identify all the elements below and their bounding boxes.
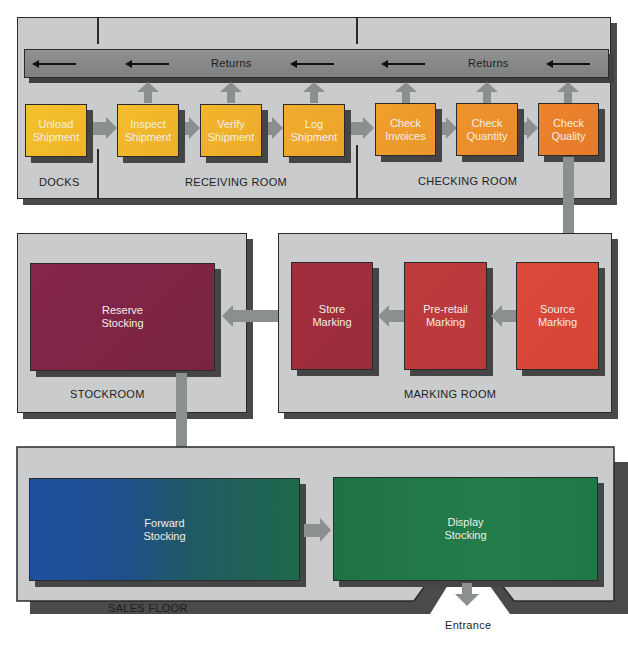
left-arrow-icon (491, 305, 516, 327)
step-label: Unload Shipment (33, 118, 79, 144)
step-label: Inspect Shipment (125, 118, 171, 144)
step-source-marking: Source Marking (516, 262, 599, 370)
step-reserve-stocking: Reserve Stocking (30, 263, 215, 371)
step-check-quantity: Check Quantity (456, 103, 518, 156)
room-label-docks: DOCKS (39, 176, 80, 188)
step-verify-shipment: Verify Shipment (200, 104, 262, 157)
step-display-stocking: Display Stocking (333, 477, 598, 581)
right-arrow-icon (345, 117, 374, 139)
step-label: Reserve Stocking (101, 304, 143, 330)
step-check-invoices: Check Invoices (375, 103, 436, 156)
returns-arrow-icon (34, 63, 76, 65)
room-label-receiving: RECEIVING ROOM (185, 176, 287, 188)
returns-label: Returns (211, 57, 252, 69)
right-arrow-icon (88, 117, 117, 139)
step-pre-retail-marking: Pre-retail Marking (404, 262, 487, 370)
room-label-sales-floor: SALES FLOOR (108, 602, 188, 614)
up-arrow-icon (557, 82, 579, 103)
down-arrow-icon (455, 594, 479, 606)
returns-label: Returns (468, 57, 509, 69)
step-check-quality: Check Quality (538, 103, 599, 156)
up-arrow-icon (476, 82, 498, 103)
step-label: Check Invoices (385, 117, 425, 143)
step-label: Check Quantity (467, 117, 508, 143)
step-store-marking: Store Marking (291, 262, 373, 370)
room-label-marking: MARKING ROOM (404, 388, 496, 400)
room-label-stockroom: STOCKROOM (70, 388, 145, 400)
docks-divider-top (97, 18, 99, 44)
step-log-shipment: Log Shipment (283, 104, 345, 157)
up-arrow-icon (303, 82, 325, 103)
docks-divider-bottom (97, 149, 99, 199)
step-unload-shipment: Unload Shipment (25, 104, 87, 157)
up-arrow-icon (137, 82, 159, 103)
step-label: Verify Shipment (208, 118, 254, 144)
step-label: Check Quality (551, 117, 585, 143)
right-arrow-icon (179, 117, 200, 139)
returns-arrow-icon (548, 63, 590, 65)
step-label: Log Shipment (291, 118, 337, 144)
right-arrow-icon (262, 117, 283, 139)
returns-arrow-icon (292, 63, 334, 65)
step-label: Source Marking (538, 303, 577, 329)
entrance-label: Entrance (445, 619, 491, 631)
step-label: Pre-retail Marking (423, 303, 468, 329)
checking-divider-bottom (356, 145, 358, 199)
step-label: Forward Stocking (143, 517, 185, 543)
step-forward-stocking: Forward Stocking (29, 478, 300, 581)
room-label-checking: CHECKING ROOM (418, 175, 517, 187)
returns-arrow-icon (127, 63, 169, 65)
right-arrow-icon (517, 117, 538, 139)
step-label: Display Stocking (444, 516, 486, 542)
step-label: Store Marking (312, 303, 351, 329)
right-arrow-icon (304, 518, 331, 542)
right-arrow-icon (436, 117, 457, 139)
checking-divider-top (356, 18, 358, 44)
up-arrow-icon (395, 82, 417, 103)
up-arrow-icon (220, 82, 242, 103)
left-arrow-icon (378, 305, 404, 327)
step-inspect-shipment: Inspect Shipment (117, 104, 179, 157)
returns-arrow-icon (383, 63, 425, 65)
